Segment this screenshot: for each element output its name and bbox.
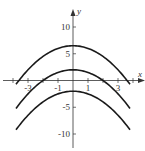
labels: -3-113105-5-10xy: [24, 6, 142, 139]
x-tick-label: 3: [116, 83, 121, 93]
y-tick-label: 10: [61, 22, 71, 32]
x-tick-label: 1: [86, 83, 91, 93]
y-axis-label: y: [76, 6, 81, 16]
y-tick-label: 5: [66, 49, 71, 59]
x-tick-label: -3: [24, 83, 32, 93]
chart: -3-113105-5-10xy: [0, 0, 145, 151]
y-tick-label: -10: [58, 129, 70, 139]
y-tick-label: -5: [63, 102, 71, 112]
x-axis-label: x: [137, 69, 142, 79]
x-tick-label: -1: [54, 83, 62, 93]
x-axis-arrow-icon: [138, 78, 145, 83]
y-axis-arrow-icon: [71, 9, 76, 16]
axes: [3, 9, 145, 148]
